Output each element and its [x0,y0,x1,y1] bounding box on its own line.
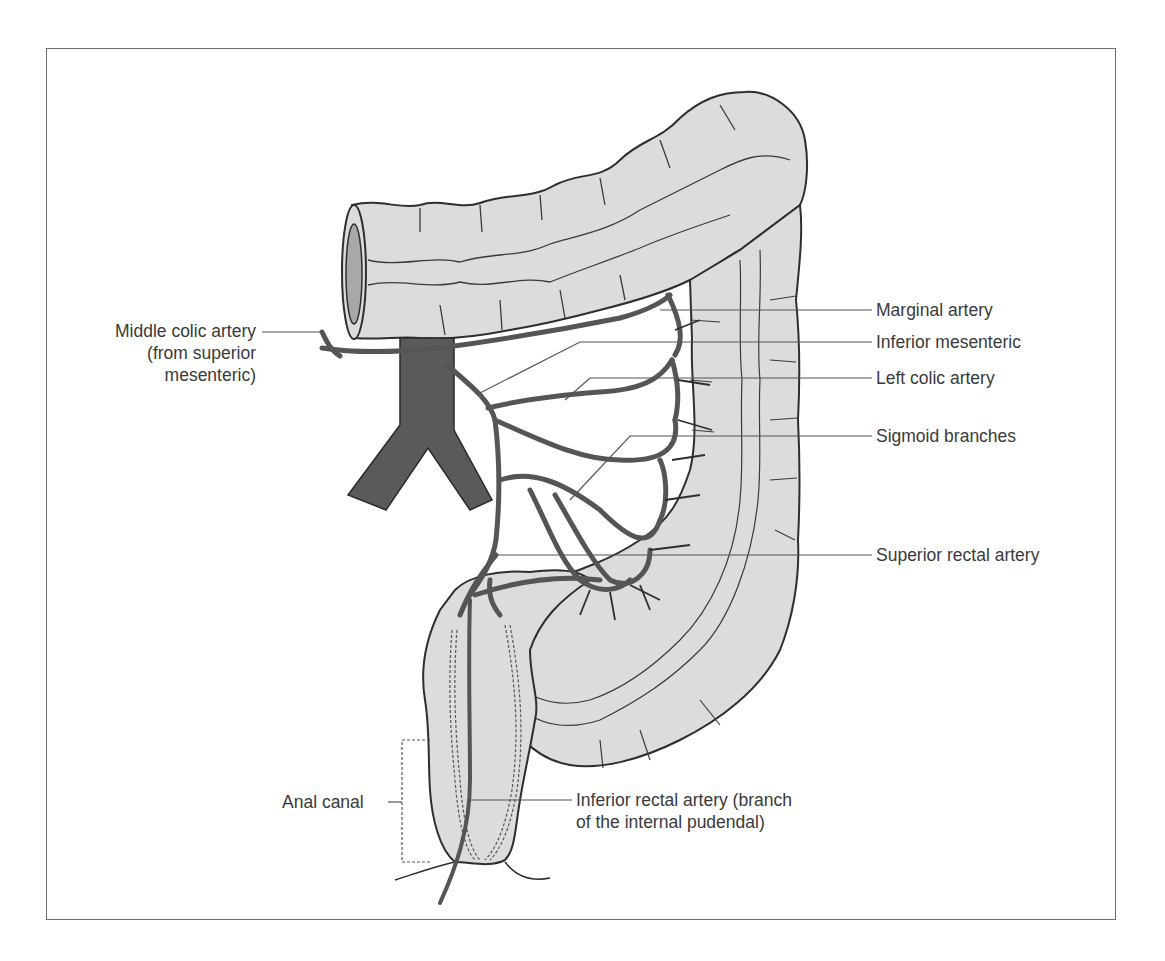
perineum-lines [395,862,550,880]
label-middle-colic-artery: Middle colic artery (from superior mesen… [60,320,256,386]
label-line: of the internal pudendal) [576,811,792,833]
label-line: Inferior rectal artery (branch [576,789,792,811]
label-sigmoid-branches: Sigmoid branches [876,425,1016,447]
aorta-icon [348,338,492,510]
label-inferior-mesenteric: Inferior mesenteric [876,331,1021,353]
anal-canal-bracket [402,740,430,862]
label-inferior-rectal-artery: Inferior rectal artery (branch of the in… [576,789,792,833]
label-anal-canal: Anal canal [282,791,364,813]
label-line: mesenteric) [60,364,256,386]
label-line: (from superior [60,342,256,364]
label-superior-rectal-artery: Superior rectal artery [876,544,1039,566]
label-line: Middle colic artery [60,320,256,342]
colon-cut-end [342,205,366,339]
label-left-colic-artery: Left colic artery [876,367,995,389]
label-marginal-artery: Marginal artery [876,299,993,321]
